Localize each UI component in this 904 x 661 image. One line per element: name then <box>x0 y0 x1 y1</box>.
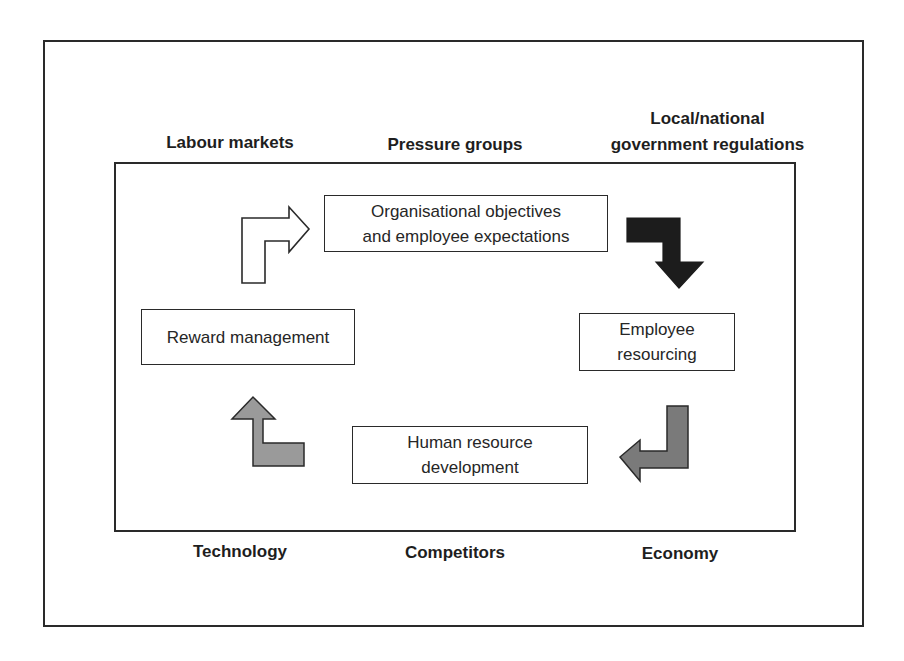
stage-reward-line1: Reward management <box>167 325 330 350</box>
factor-government-regulations-line1: Local/national <box>585 106 830 132</box>
factor-technology: Technology <box>170 539 310 564</box>
factor-pressure-groups: Pressure groups <box>370 132 540 157</box>
stage-resourcing-line1: Employee <box>617 317 696 342</box>
stage-org-line1: Organisational objectives <box>363 199 570 224</box>
stage-organisational-objectives: Organisational objectives and employee e… <box>324 195 608 252</box>
stage-employee-resourcing: Employee resourcing <box>579 313 735 371</box>
stage-resourcing-line2: resourcing <box>617 342 696 367</box>
stage-human-resource-development: Human resource development <box>352 426 588 484</box>
stage-hrd-line1: Human resource <box>407 430 533 455</box>
factor-competitors: Competitors <box>385 540 525 565</box>
factor-government-regulations-line2: government regulations <box>585 132 830 158</box>
factor-labour-markets: Labour markets <box>150 130 310 155</box>
factor-government-regulations: Local/national government regulations <box>585 106 830 158</box>
factor-economy: Economy <box>610 541 750 566</box>
stage-hrd-line2: development <box>407 455 533 480</box>
stage-org-line2: and employee expectations <box>363 224 570 249</box>
stage-reward-management: Reward management <box>141 309 355 365</box>
